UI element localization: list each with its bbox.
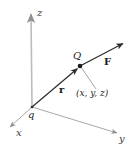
force-vector-label: F [104, 57, 111, 67]
y-axis-label: y [119, 134, 125, 144]
charge-q-marker [31, 106, 34, 109]
force-vector-f [80, 44, 123, 67]
charge-q-label: q [28, 110, 34, 120]
coordinates-label: (x, y, z) [76, 89, 108, 98]
y-axis [32, 107, 117, 133]
z-axis-label: z [37, 8, 42, 18]
x-axis-label: x [16, 128, 22, 138]
physics-diagram-figure: z y x q Q r F (x, y, z) [0, 0, 133, 152]
z-axis [31, 14, 32, 107]
point-q-marker [78, 64, 83, 69]
point-q-label: Q [73, 51, 81, 61]
position-vector-label: r [59, 85, 64, 95]
coordinate-leader-line [81, 67, 96, 89]
position-vector-r [32, 69, 78, 108]
